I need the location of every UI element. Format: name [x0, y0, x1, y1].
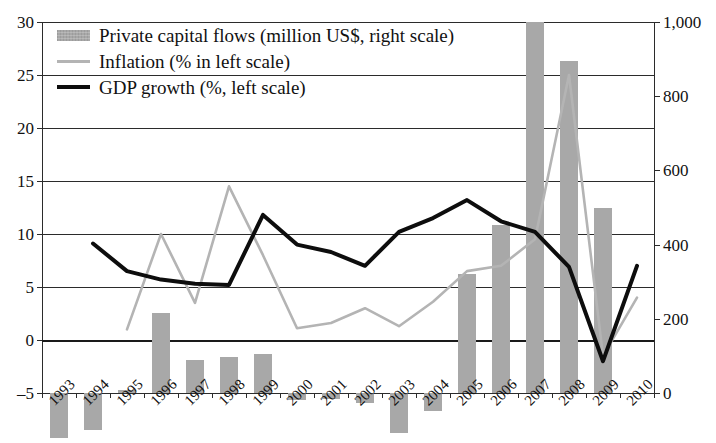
y-axis-right-tick-label: 600: [663, 162, 689, 179]
chart-legend: Private capital flows (million US$, righ…: [57, 22, 477, 100]
y-axis-right-tickmark: [655, 96, 660, 97]
y-axis-right-tickmark: [655, 319, 660, 320]
legend-label: Private capital flows (million US$, righ…: [99, 26, 454, 45]
y-axis-left-tickmark: [37, 181, 42, 182]
chart-figure: 302520151050–5 1,0008006004002000 199319…: [0, 0, 716, 443]
y-axis-right: 1,0008006004002000: [663, 22, 716, 393]
y-axis-left-tick-label: 25: [17, 67, 34, 84]
y-axis-left: 302520151050–5: [0, 22, 34, 393]
axis-line-right: [654, 22, 655, 393]
y-axis-left-tick-label: 20: [17, 120, 34, 137]
y-axis-right-tickmark: [655, 245, 660, 246]
y-axis-right-tick-label: 400: [663, 236, 689, 253]
y-axis-right-tick-label: 0: [663, 385, 672, 402]
y-axis-left-tick-label: 10: [17, 226, 34, 243]
legend-label: Inflation (% in left scale): [99, 52, 290, 71]
y-axis-left-tickmark: [37, 287, 42, 288]
line-series: [93, 200, 637, 361]
line-series: [127, 75, 637, 356]
y-axis-left-tickmark: [37, 22, 42, 23]
legend-label: GDP growth (%, left scale): [99, 78, 306, 97]
y-axis-right-tick-label: 200: [663, 310, 689, 327]
y-axis-left-tickmark: [37, 393, 42, 394]
legend-swatch: [57, 60, 90, 63]
y-axis-left-tick-label: 0: [26, 332, 35, 349]
legend-item: Inflation (% in left scale): [57, 48, 477, 74]
y-axis-right-tickmark: [655, 393, 660, 394]
y-axis-left-tickmark: [37, 75, 42, 76]
y-axis-left-tick-label: 5: [26, 279, 35, 296]
y-axis-left-tickmark: [37, 128, 42, 129]
y-axis-right-tickmark: [655, 170, 660, 171]
legend-item: GDP growth (%, left scale): [57, 74, 477, 100]
y-axis-right-tickmark: [655, 22, 660, 23]
y-axis-left-tickmark: [37, 340, 42, 341]
y-axis-right-tick-label: 800: [663, 88, 689, 105]
y-axis-left-tick-label: 30: [17, 14, 34, 31]
y-axis-right-tick-label: 1,000: [663, 14, 701, 31]
legend-item: Private capital flows (million US$, righ…: [57, 22, 477, 48]
legend-swatch: [57, 30, 90, 41]
legend-swatch: [57, 85, 90, 89]
y-axis-left-tickmark: [37, 234, 42, 235]
x-axis-labels: 1993199419951996199719981999200020012002…: [42, 398, 654, 443]
y-axis-left-tick-label: –5: [17, 385, 34, 402]
y-axis-left-tick-label: 15: [17, 173, 34, 190]
